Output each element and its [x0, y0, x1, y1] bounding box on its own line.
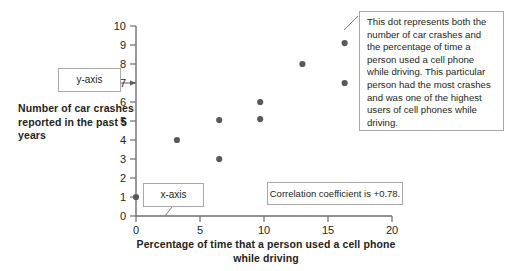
data-point-group: [133, 23, 386, 200]
y-tick-label: 1: [120, 191, 126, 203]
data-point: [216, 156, 222, 162]
x-axis-leader-line: [165, 207, 172, 216]
scatter-plot-figure: 10 9 8 7 6 5 4 3 2 1 0 0 5 10 15 20: [0, 0, 509, 271]
x-axis-ticks: [136, 216, 392, 222]
y-axis-title: Number of car crashes reported in the pa…: [18, 102, 138, 143]
y-tick-label: 0: [120, 210, 126, 222]
y-tick-label: 10: [114, 20, 126, 32]
y-axis-callout: y-axis: [58, 68, 121, 92]
data-point: [257, 116, 263, 122]
data-point: [174, 137, 180, 143]
correlation-coefficient-callout: Correlation coefficient is +0.78.: [267, 182, 403, 205]
data-point: [342, 40, 348, 46]
data-point: [216, 117, 222, 123]
x-axis-title: Percentage of time that a person used a …: [130, 238, 402, 265]
x-tick-label: 0: [133, 224, 139, 236]
y-tick-label: 3: [120, 153, 126, 165]
x-tick-label: 10: [258, 224, 270, 236]
data-point: [342, 80, 348, 86]
x-tick-label: 5: [197, 224, 203, 236]
x-axis-callout: x-axis: [143, 183, 204, 207]
y-tick-label: 2: [120, 172, 126, 184]
x-axis-tick-labels: 0 5 10 15 20: [133, 224, 398, 236]
y-tick-label: 9: [120, 39, 126, 51]
dot-description-callout: This dot represents both the number of c…: [359, 11, 504, 131]
x-tick-label: 20: [386, 224, 398, 236]
data-point: [257, 99, 263, 105]
dot-leader-line: [344, 16, 358, 30]
data-point: [133, 194, 139, 200]
data-point: [299, 61, 305, 67]
x-tick-label: 15: [322, 224, 334, 236]
